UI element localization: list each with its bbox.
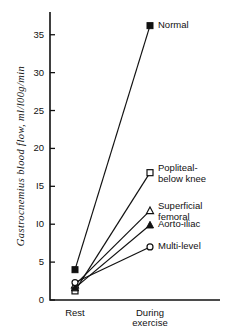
y-axis-tick-label: 20 [33,142,44,153]
series-line-superficial-femoral [75,211,150,285]
data-point-aorto-iliac [147,221,154,228]
y-axis-tick-label: 25 [33,105,44,116]
data-point-normal [72,267,78,273]
y-axis-tick-label: 5 [39,256,44,267]
series-label-popliteal-below-knee: Popliteal- [158,162,198,173]
x-axis-tick-label: Rest [65,307,85,318]
data-point-superficial-femoral [147,207,154,214]
chart-figure: 05I0I520253035Gastrocnemius blood flow, … [0,0,227,333]
series-label-superficial-femoral: Superficial [158,200,202,211]
data-point-popliteal-below-knee [147,170,153,176]
y-axis-tick-label: I0 [36,218,44,229]
data-point-normal [147,23,153,29]
series-label-aorto-iliac: Aorto-iliac [158,218,200,229]
series-line-normal [75,26,150,270]
y-axis-tick-label: 0 [39,294,44,305]
y-axis-tick-label: 30 [33,67,44,78]
data-point-multi-level [72,280,78,286]
y-axis-title: Gastrocnemius blood flow, ml/l00g/min [15,66,26,246]
y-axis-tick-label: 35 [33,29,44,40]
data-point-multi-level [147,244,153,250]
blood-flow-line-chart: 05I0I520253035Gastrocnemius blood flow, … [0,0,227,333]
x-axis-tick-label: exercise [132,317,167,328]
series-line-multi-level [75,247,150,283]
series-label-popliteal-below-knee: below knee [158,173,206,184]
series-label-normal: Normal [158,19,189,30]
series-label-multi-level: Multi-level [158,240,201,251]
y-axis-tick-label: I5 [36,180,44,191]
chart-axes [50,12,220,300]
